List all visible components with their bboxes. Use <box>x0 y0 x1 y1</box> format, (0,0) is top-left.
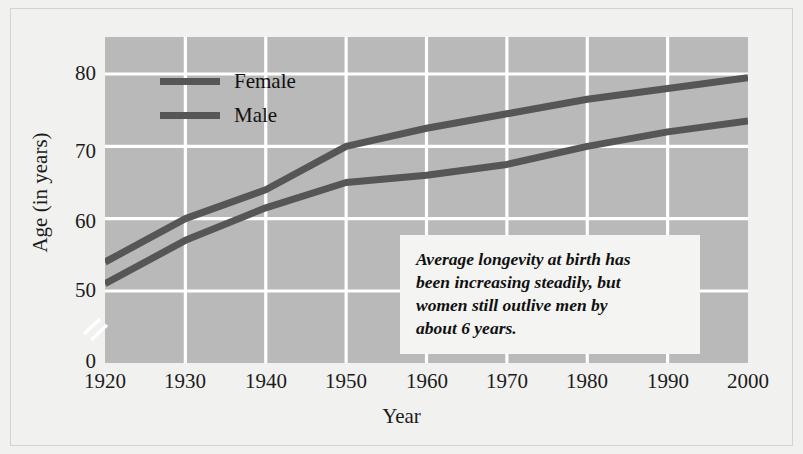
legend-swatch-female <box>160 78 220 85</box>
callout-line-2: been increasing steadily, but <box>416 271 684 294</box>
x-tick-1960: 1960 <box>387 371 467 392</box>
x-tick-1980: 1980 <box>547 371 627 392</box>
x-tick-1920: 1920 <box>65 371 145 392</box>
x-tick-2000: 2000 <box>708 371 788 392</box>
x-tick-1930: 1930 <box>145 371 225 392</box>
summary-callout: Average longevity at birth has been incr… <box>400 235 700 354</box>
callout-line-4: about 6 years. <box>416 317 684 340</box>
legend-swatch-male <box>160 112 220 119</box>
x-tick-1940: 1940 <box>226 371 306 392</box>
x-tick-1990: 1990 <box>628 371 708 392</box>
y-axis-title-wrap: Age (in years) <box>0 0 1 1</box>
axis-break-icon <box>80 315 114 345</box>
callout-line-1: Average longevity at birth has <box>416 248 684 271</box>
callout-line-3: women still outlive men by <box>416 294 684 317</box>
legend-item-male: Male <box>160 98 380 132</box>
x-axis-title: Year <box>0 404 803 429</box>
legend-label-female: Female <box>234 71 296 92</box>
x-tick-1970: 1970 <box>467 371 547 392</box>
chart-legend: Female Male <box>160 64 380 132</box>
y-axis-title: Age (in years) <box>28 73 53 313</box>
x-tick-1950: 1950 <box>306 371 386 392</box>
legend-item-female: Female <box>160 64 380 98</box>
x-axis-tick-labels: 1920 1930 1940 1950 1960 1970 1980 1990 … <box>0 371 803 401</box>
legend-label-male: Male <box>234 105 277 126</box>
longevity-line-chart-figure: 80 70 60 50 0 Age (in years) 1920 1930 1… <box>0 0 803 454</box>
